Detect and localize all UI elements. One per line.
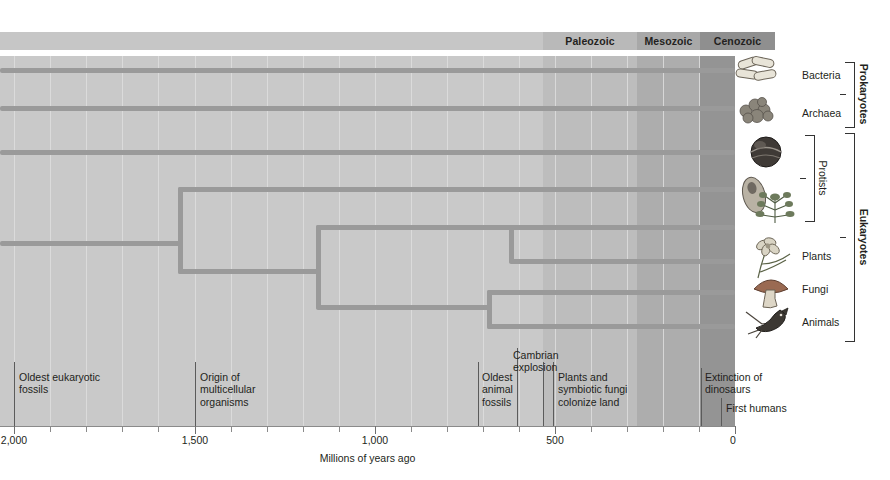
branch-protist-amoeba (178, 187, 735, 192)
axis-tick-minor (303, 426, 304, 432)
node-opisthokont-split (316, 225, 321, 309)
event-label-extinction-dinosaurs: Extinction of dinosaurs (705, 371, 785, 396)
branch-to-plant-node (316, 225, 514, 230)
axis-label-1000: 1,000 (362, 434, 388, 446)
taxon-label-plants: Plants (802, 250, 831, 262)
axis-tick-minor (519, 426, 520, 432)
protist-algae-icon (752, 189, 798, 225)
axis-tick-minor (699, 426, 700, 432)
bird-icon (742, 304, 792, 346)
taxon-label-bacteria: Bacteria (802, 69, 841, 81)
bacteria-rods-icon (734, 55, 780, 85)
event-label-colonize-land: Plants and symbiotic fungi colonize land (558, 371, 652, 408)
time-axis (0, 426, 735, 427)
taxon-label-fungi: Fungi (802, 283, 828, 295)
axis-tick-minor (50, 426, 51, 432)
archaea-cluster-icon (735, 96, 779, 124)
axis-tick-minor (158, 426, 159, 432)
bracket-eukaryotes (845, 133, 855, 342)
axis-label-0: 0 (730, 434, 736, 446)
gridline (411, 56, 412, 426)
bracket-protists-stem (800, 178, 806, 179)
axis-tick-minor (447, 426, 448, 432)
node-plants (509, 225, 514, 263)
branch-protist-sphere (0, 150, 735, 155)
branch-to-fungi-animal-node (316, 305, 492, 310)
branch-archaea (0, 106, 735, 111)
event-marker-origin-multicellular (195, 362, 196, 426)
event-marker-oldest-animal-fossils (478, 362, 479, 426)
event-marker-extinction-dinosaurs (701, 368, 702, 426)
gridline (303, 56, 304, 426)
node-multicellular (178, 187, 183, 274)
branch-plants (509, 259, 735, 264)
axis-tick-major (735, 426, 736, 434)
branch-to-node2 (178, 269, 321, 274)
branch-animals (487, 324, 735, 329)
geologic-era-bar: Paleozoic Mesozoic Cenozoic (0, 32, 775, 50)
group-label-protists: Protists (817, 160, 829, 195)
gridline (663, 56, 664, 426)
protist-sphere-icon (745, 135, 787, 169)
event-label-oldest-animal-fossils: Oldest animal fossils (482, 371, 522, 408)
bracket-protists (805, 135, 815, 222)
group-label-prokaryotes: Prokaryotes (858, 64, 870, 125)
group-label-eukaryotes: Eukaryotes (858, 209, 870, 266)
gridline (447, 56, 448, 426)
axis-label-1500: 1,500 (182, 434, 208, 446)
branch-eukaryote-stem (0, 241, 183, 246)
axis-label-2000: 2,000 (1, 434, 27, 446)
gridline (699, 56, 700, 426)
phylogeny-figure: Paleozoic Mesozoic Cenozoic (0, 0, 890, 480)
event-label-origin-multicellular: Origin of multicellular organisms (200, 371, 292, 408)
event-label-first-humans: First humans (726, 402, 806, 414)
axis-tick-minor (267, 426, 268, 432)
event-label-oldest-eukaryotic-fossils: Oldest eukaryotic fossils (19, 371, 129, 396)
era-mesozoic: Mesozoic (637, 32, 700, 50)
event-marker-first-humans (721, 398, 722, 426)
axis-label-500: 500 (546, 434, 564, 446)
axis-tick-minor (483, 426, 484, 432)
flowering-plant-icon (742, 234, 794, 280)
axis-tick-major (555, 426, 556, 434)
bracket-eukaryotes-stem (840, 237, 846, 238)
event-marker-oldest-eukaryotic-fossils (14, 362, 15, 426)
bracket-prokaryotes (845, 62, 855, 128)
taxon-label-animals: Animals (802, 316, 839, 328)
branch-bacteria (0, 68, 735, 73)
era-cenozoic: Cenozoic (700, 32, 775, 50)
axis-tick-minor (339, 426, 340, 432)
axis-tick-minor (627, 426, 628, 432)
gridline (339, 56, 340, 426)
axis-title: Millions of years ago (0, 452, 735, 464)
branch-protist-algae (509, 225, 735, 230)
era-paleozoic: Paleozoic (543, 32, 637, 50)
axis-tick-minor (86, 426, 87, 432)
axis-tick-major (195, 426, 196, 434)
gridline (375, 56, 376, 426)
axis-tick-major (14, 426, 15, 434)
axis-tick-minor (231, 426, 232, 432)
axis-tick-major (375, 426, 376, 434)
axis-tick-minor (663, 426, 664, 432)
taxon-label-archaea: Archaea (802, 107, 841, 119)
axis-tick-minor (122, 426, 123, 432)
branch-fungi (487, 290, 735, 295)
axis-tick-minor (411, 426, 412, 432)
bracket-prokaryotes-stem (840, 94, 846, 95)
axis-tick-minor (591, 426, 592, 432)
